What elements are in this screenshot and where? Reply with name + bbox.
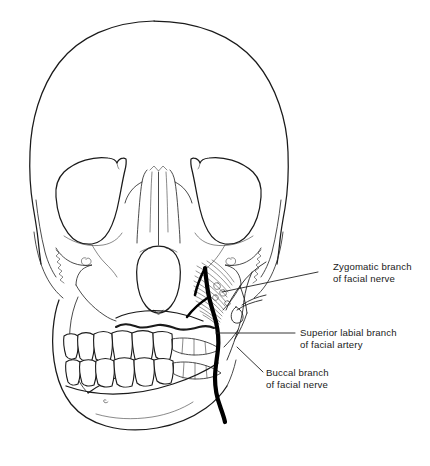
label-superior-labial-branch-line1: Superior labial branch: [300, 327, 397, 338]
tooth-lower-6: [154, 359, 173, 384]
label-zygomatic-branch-line2: of facial nerve: [333, 273, 395, 284]
tooth-upper-1: [64, 334, 79, 359]
tooth-lower-5: [134, 358, 154, 386]
label-superior-labial-branch-line2: of facial artery: [300, 339, 363, 350]
tooth-lower-2: [80, 360, 97, 386]
tooth-upper-6: [153, 332, 172, 360]
tooth-lower-1: [66, 360, 81, 385]
skull-illustration-svg: Zygomatic branch of facial nerve Superio…: [0, 0, 430, 466]
label-buccal-branch-line2: of facial nerve: [266, 379, 328, 390]
tooth-lower-3: [96, 359, 115, 387]
tooth-upper-3: [94, 332, 113, 362]
label-buccal-branch-line1: Buccal branch: [266, 367, 329, 378]
anatomical-figure: Zygomatic branch of facial nerve Superio…: [0, 0, 430, 466]
label-zygomatic-branch-line1: Zygomatic branch: [333, 261, 412, 272]
tooth-lower-4: [114, 358, 134, 387]
tooth-upper-2: [78, 333, 95, 361]
